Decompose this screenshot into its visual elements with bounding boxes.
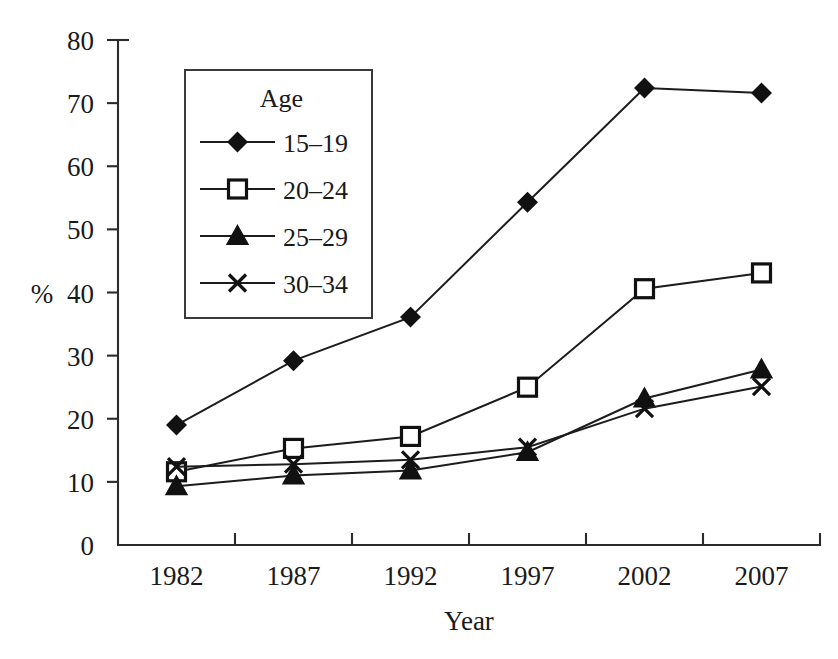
y-axis-title: %: [31, 279, 54, 309]
y-tick-label: 60: [67, 152, 94, 182]
series-4-point-6-cross-marker: [753, 378, 770, 395]
series-2-point-3-square-marker: [402, 427, 420, 445]
line-chart-figure: 0102030405060708019821987199219972002200…: [0, 0, 838, 659]
series-2-point-2-square-marker: [285, 439, 303, 457]
series-2-point-5-square-marker: [636, 280, 654, 298]
series-line-3: [177, 370, 762, 487]
y-tick-label: 70: [67, 89, 94, 119]
legend-entry-2-square-marker: [229, 180, 247, 198]
y-tick-label: 10: [67, 468, 94, 498]
x-tick-label: 1992: [384, 561, 438, 591]
x-tick-label: 2007: [735, 561, 789, 591]
y-tick-label: 30: [67, 342, 94, 372]
legend-entry-label-3: 25–29: [283, 223, 348, 252]
x-tick-label: 1987: [267, 561, 321, 591]
series-1-point-1-diamond-marker: [167, 416, 186, 435]
series-2-point-6-square-marker: [753, 264, 771, 282]
legend-entry-label-1: 15–19: [283, 129, 348, 158]
series-1-point-6-diamond-marker: [752, 84, 771, 103]
legend-entry-label-4: 30–34: [283, 270, 348, 299]
series-3: [166, 359, 772, 494]
legend-entry-label-2: 20–24: [283, 176, 348, 205]
legend-title: Age: [260, 84, 303, 113]
y-tick-label: 0: [81, 531, 95, 561]
series-3-point-6-triangle-marker: [751, 359, 772, 378]
y-tick-label: 40: [67, 279, 94, 309]
x-axis-title: Year: [444, 606, 494, 636]
x-tick-label: 1982: [150, 561, 204, 591]
y-tick-label: 20: [67, 405, 94, 435]
x-tick-label: 1997: [501, 561, 555, 591]
legend: Age15–1920–2425–2930–34: [185, 70, 372, 318]
y-tick-label: 50: [67, 215, 94, 245]
chart-canvas: 0102030405060708019821987199219972002200…: [0, 0, 838, 659]
series-2-point-4-square-marker: [519, 378, 537, 396]
y-tick-label: 80: [67, 26, 94, 56]
series-1-point-2-diamond-marker: [284, 351, 303, 370]
x-tick-label: 2002: [618, 561, 672, 591]
